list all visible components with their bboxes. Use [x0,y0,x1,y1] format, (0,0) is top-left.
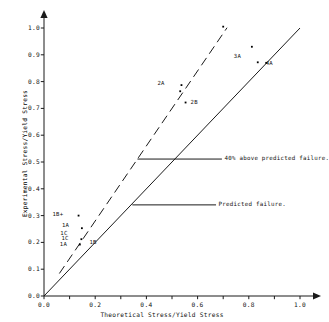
data-point-label: 1B [89,240,96,246]
data-point [79,244,81,246]
y-axis-tick-label: 0.9 [20,52,40,58]
data-point [222,26,224,28]
data-point [81,227,83,229]
y-axis-tick-label: 0.3 [20,212,40,218]
y-axis-tick-label: 0.7 [20,105,40,111]
data-point-label: 4A [266,61,273,67]
x-axis-label: Theoretical Stress/Yield Stress [100,312,223,318]
annotation-text-forty-percent-above-predicted-failure: 40% above predicted failure. [224,156,329,162]
x-axis-tick-label: 0.2 [89,302,101,308]
data-point [251,46,253,48]
reference-line-forty-percent-above [59,28,227,274]
y-axis-tick-label: 0.6 [20,132,40,138]
x-axis-tick-label: 0.6 [192,302,204,308]
x-axis-arrowhead [313,292,321,299]
y-axis-tick-label: 0.4 [20,186,40,192]
y-axis-tick-label: 0.1 [20,266,40,272]
x-axis-tick-label: 1.0 [294,302,306,308]
data-point [80,238,82,240]
y-axis-arrowhead [40,10,47,18]
data-point [78,215,80,217]
y-axis-tick-label: 0.0 [20,293,40,299]
data-point-label: 2A [157,81,164,87]
data-point-label: 3A [234,54,241,60]
data-point-label: 1A [60,242,67,248]
y-axis-tick-label: 1.0 [20,25,40,31]
x-axis-tick-label: 0.0 [38,302,50,308]
y-axis-tick-label: 0.2 [20,239,40,245]
data-point-label: 2B [191,100,198,106]
data-point [179,90,181,92]
reference-line-predicted-failure [44,28,300,296]
data-point-label: 1B+ [53,212,64,218]
data-point-label: 1A [62,223,69,229]
x-axis-tick-label: 0.8 [243,302,255,308]
data-point [257,61,259,63]
y-axis-tick-label: 0.5 [20,159,40,165]
x-axis-tick-label: 0.4 [140,302,152,308]
annotation-text-predicted-failure: Predicted failure. [219,202,286,208]
y-axis-tick-label: 0.8 [20,78,40,84]
data-point [185,102,187,104]
data-point [181,84,183,86]
